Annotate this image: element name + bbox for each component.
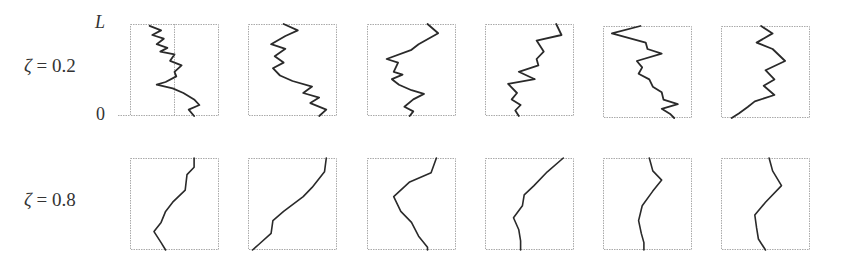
panel-row1-col4	[485, 24, 574, 116]
panel-row1-col5	[603, 26, 692, 118]
sample-path-curve	[732, 26, 785, 118]
sample-path-curve	[394, 158, 437, 250]
panel-frame	[368, 159, 456, 250]
panel-frame	[486, 159, 574, 250]
panel-frame	[486, 25, 574, 116]
panel-frame	[604, 159, 692, 250]
sample-path-curve	[508, 24, 561, 116]
y-tick-bottom-0: 0	[96, 104, 105, 125]
sample-path-curve	[253, 158, 327, 250]
panel-row2-col1	[130, 158, 219, 250]
row-label-value: = 0.2	[32, 55, 76, 76]
sample-path-curve	[154, 158, 194, 250]
panel-row1-col6	[721, 26, 810, 118]
row-label-zeta-0.8: ζ = 0.8	[24, 189, 76, 211]
row-label-zeta-0.2: ζ = 0.2	[24, 55, 76, 77]
sample-path-curve	[612, 26, 678, 118]
panel-frame	[722, 159, 810, 250]
panel-row2-col5	[603, 158, 692, 250]
row-label-value: = 0.8	[32, 189, 76, 210]
y-tick-top-L: L	[95, 12, 105, 33]
panel-frame	[131, 159, 219, 250]
sample-path-curve	[387, 24, 439, 116]
panel-row1-col2	[248, 24, 337, 116]
sample-path-curve	[755, 158, 782, 250]
panel-frame	[249, 25, 337, 116]
sample-path-curve	[271, 24, 326, 116]
zeta-symbol: ζ	[24, 189, 32, 210]
panel-row2-col2	[248, 158, 337, 250]
panel-row1-col1	[130, 24, 219, 116]
panel-row2-col6	[721, 158, 810, 250]
zeta-symbol: ζ	[24, 55, 32, 76]
panel-frame	[722, 27, 810, 118]
panel-row1-col3	[367, 24, 456, 116]
panel-row2-col4	[485, 158, 574, 250]
sample-path-curve	[514, 158, 564, 250]
sample-path-curve	[639, 158, 662, 250]
panel-row2-col3	[367, 158, 456, 250]
